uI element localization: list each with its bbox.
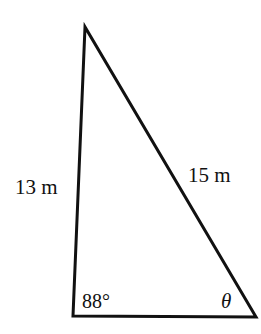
left-side-length-label: 13 m: [15, 177, 58, 198]
bottom-left-angle-label: 88°: [82, 291, 110, 311]
triangle-diagram: 13 m 15 m 88° θ: [0, 0, 261, 334]
theta-angle-label: θ: [221, 291, 231, 312]
hypotenuse-length-label: 15 m: [188, 165, 231, 186]
